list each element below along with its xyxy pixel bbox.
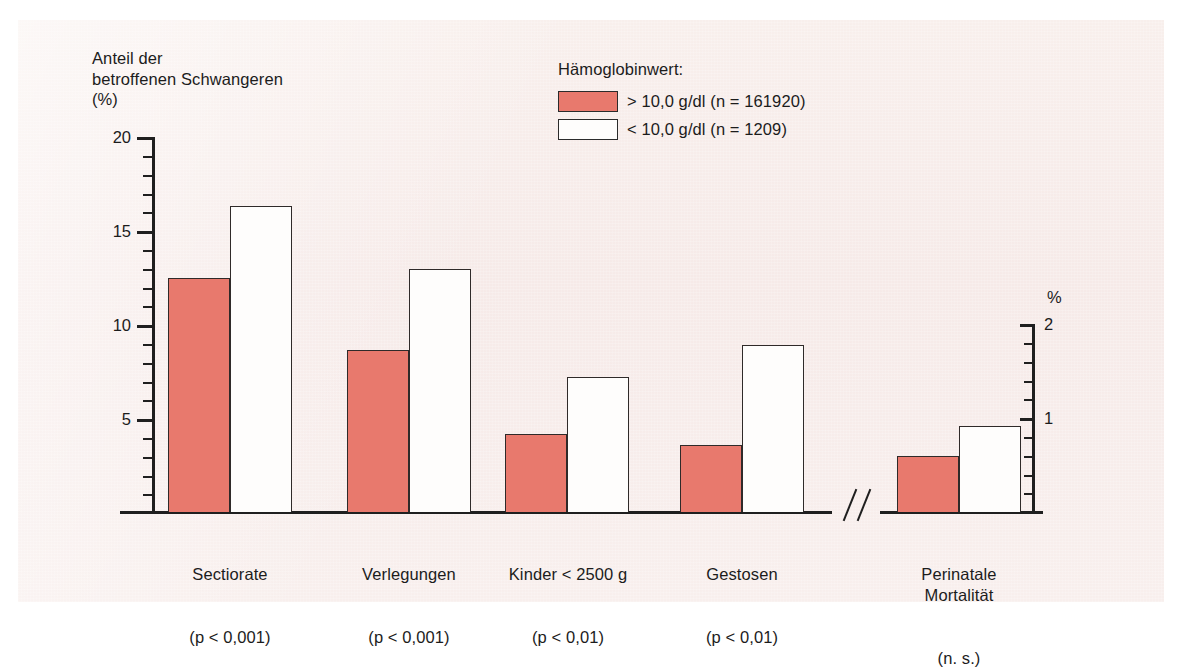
y-axis-left-major-tick-10 [137,325,153,328]
x-axis-label-verlegungen: Verlegungen (p < 0,001) [329,522,489,671]
x-axis-label-perinatale-mortalitaet: Perinatale Mortalität (n. s.) [879,522,1039,671]
y-axis-left-minor-tick [143,156,153,158]
x-axis-label-kinder-2500g-name: Kinder < 2500 g [477,564,659,585]
y-axis-right-minor-tick [1024,456,1035,458]
x-axis-label-sectiorate-sig: (p < 0,001) [150,627,310,648]
y-axis-left-minor-tick [143,476,153,478]
bar-verlegungen-high-hb [347,350,409,512]
x-axis-label-perinatale-mortalitaet-sig: (n. s.) [879,648,1039,669]
y-axis-right-minor-tick [1024,493,1035,495]
x-axis-label-verlegungen-sig: (p < 0,001) [329,627,489,648]
bar-sectiorate-high-hb [168,278,230,512]
y-axis-right-minor-tick [1024,381,1035,383]
y-axis-right-major-tick-1 [1020,418,1035,421]
y-axis-right-minor-tick [1024,475,1035,477]
y-axis-left-minor-tick [143,363,153,365]
y-axis-left-major-tick-20 [137,137,153,140]
x-axis-label-gestosen: Gestosen (p < 0,01) [662,522,822,671]
x-axis-label-sectiorate-name: Sectiorate [150,564,310,585]
y-axis-left-major-tick-5 [137,419,153,422]
bar-kinder-2500g-high-hb [505,434,567,512]
x-axis-label-kinder-2500g: Kinder < 2500 g (p < 0,01) [477,522,659,671]
x-axis-label-perinatale-mortalitaet-name: Perinatale Mortalität [879,564,1039,606]
y-axis-left-tick-label-15: 15 [91,222,131,241]
y-axis-left-minor-tick [143,400,153,402]
y-axis-left-minor-tick [143,212,153,214]
y-axis-left-minor-tick [143,194,153,196]
x-axis-label-kinder-2500g-sig: (p < 0,01) [477,627,659,648]
y-axis-left-minor-tick [143,288,153,290]
y-axis-right-minor-tick [1024,399,1035,401]
y-axis-left-minor-tick [143,457,153,459]
y-axis-left-minor-tick [143,344,153,346]
y-axis-left-minor-tick [143,306,153,308]
y-axis-right-major-tick-2 [1020,324,1035,327]
bar-gestosen-low-hb [742,345,804,512]
y-axis-left-tick-label-10: 10 [91,316,131,335]
y-axis-right-minor-tick [1024,437,1035,439]
axis-break-slash-2 [857,489,872,521]
x-axis-label-verlegungen-name: Verlegungen [329,564,489,585]
axis-break-slash-1 [843,489,858,521]
y-axis-left-minor-tick [143,175,153,177]
bar-perinatale-mortalitaet-low-hb [959,426,1021,512]
y-axis-left-minor-tick [143,438,153,440]
y-axis-left-minor-tick [143,250,153,252]
y-axis-left-major-tick-15 [137,231,153,234]
y-axis-left-tick-label-5: 5 [91,410,131,429]
bar-perinatale-mortalitaet-high-hb [897,456,959,512]
y-axis-right-minor-tick [1024,343,1035,345]
y-axis-right-minor-tick [1024,362,1035,364]
x-axis-label-gestosen-sig: (p < 0,01) [662,627,822,648]
y-axis-left-minor-tick [143,494,153,496]
y-axis-right-tick-label-2: 2 [1044,315,1074,334]
x-axis-label-sectiorate: Sectiorate (p < 0,001) [150,522,310,671]
bar-gestosen-high-hb [680,445,742,512]
y-axis-left-minor-tick [143,269,153,271]
bar-kinder-2500g-low-hb [567,377,629,512]
y-axis-left-minor-tick [143,382,153,384]
x-axis-label-gestosen-name: Gestosen [662,564,822,585]
y-axis-left-tick-label-20: 20 [91,128,131,147]
bar-sectiorate-low-hb [230,206,292,512]
bar-verlegungen-low-hb [409,269,471,512]
y-axis-right-tick-label-1: 1 [1044,409,1074,428]
